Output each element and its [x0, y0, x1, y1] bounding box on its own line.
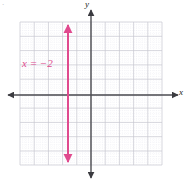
coordinate-plane-figure	[0, 0, 188, 185]
y-axis-label: y	[85, 0, 89, 9]
corner-mark: ·	[2, 1, 4, 9]
line-equation-label: x = −2	[22, 58, 53, 69]
x-axis-label: x	[179, 88, 183, 97]
